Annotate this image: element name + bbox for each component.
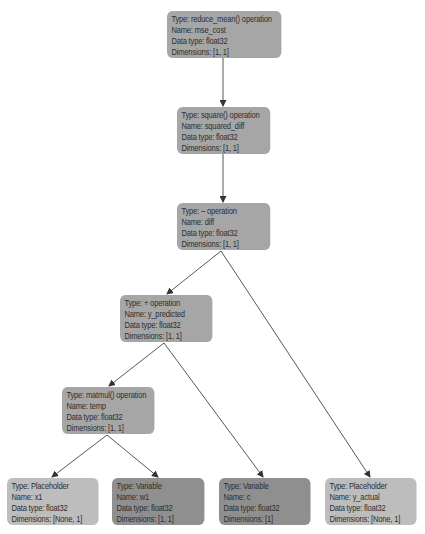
- node-type: Type: Variable: [116, 481, 200, 492]
- node-name: Name: diff: [181, 217, 266, 228]
- node-dims: Dimensions: [None, 1]: [11, 514, 95, 525]
- node-squared-diff: Type: square() operation Name: squared_d…: [177, 107, 270, 154]
- edges-layer: [0, 0, 425, 534]
- node-y-actual: Type: Placeholder Name: y_actual Data ty…: [325, 478, 417, 525]
- node-type: Type: + operation: [124, 298, 208, 309]
- node-dims: Dimensions: [1, 1]: [171, 47, 277, 58]
- node-y-predicted: Type: + operation Name: y_predicted Data…: [120, 295, 212, 342]
- node-dtype: Data type: float32: [116, 503, 200, 514]
- node-dtype: Data type: float32: [124, 320, 208, 331]
- node-name: Name: mse_cost: [171, 25, 277, 36]
- node-mse-cost: Type: reduce_mean() operation Name: mse_…: [167, 11, 281, 58]
- node-type: Type: square() operation: [181, 110, 266, 121]
- node-dims: Dimensions: [1, 1]: [181, 143, 266, 154]
- node-dtype: Data type: float32: [66, 412, 150, 423]
- node-type: Type: Variable: [223, 481, 307, 492]
- node-name: Name: y_actual: [329, 492, 413, 503]
- node-name: Name: squared_diff: [181, 121, 266, 132]
- edge-diff-y_predicted: [167, 251, 221, 294]
- node-name: Name: y_predicted: [124, 309, 208, 320]
- edge-y_predicted-temp: [109, 343, 164, 386]
- node-type: Type: reduce_mean() operation: [171, 14, 277, 25]
- node-name: Name: w1: [116, 492, 200, 503]
- node-dtype: Data type: float32: [181, 228, 266, 239]
- node-dims: Dimensions: [1, 1]: [181, 239, 266, 250]
- node-dtype: Data type: float32: [329, 503, 413, 514]
- node-dims: Dimensions: [1]: [223, 514, 307, 525]
- node-type: Type: Placeholder: [11, 481, 95, 492]
- node-dtype: Data type: float32: [171, 36, 277, 47]
- node-name: Name: x1: [11, 492, 95, 503]
- node-type: Type: Placeholder: [329, 481, 413, 492]
- node-w1: Type: Variable Name: w1 Data type: float…: [112, 478, 204, 525]
- edge-temp-w1: [107, 435, 158, 477]
- node-name: Name: temp: [66, 401, 150, 412]
- node-c: Type: Variable Name: c Data type: float3…: [219, 478, 311, 525]
- node-dims: Dimensions: [1, 1]: [124, 331, 208, 342]
- node-dtype: Data type: float32: [181, 132, 266, 143]
- node-dtype: Data type: float32: [223, 503, 307, 514]
- edge-y_predicted-c: [164, 343, 263, 477]
- node-dims: Dimensions: [None, 1]: [329, 514, 413, 525]
- edge-diff-y_actual: [221, 251, 370, 477]
- node-type: Type: matmul() operation: [66, 390, 150, 401]
- node-diff: Type: – operation Name: diff Data type: …: [177, 203, 270, 250]
- node-temp: Type: matmul() operation Name: temp Data…: [62, 387, 154, 434]
- node-type: Type: – operation: [181, 206, 266, 217]
- node-dims: Dimensions: [1, 1]: [66, 423, 150, 434]
- node-dtype: Data type: float32: [11, 503, 95, 514]
- node-name: Name: c: [223, 492, 307, 503]
- node-x1: Type: Placeholder Name: x1 Data type: fl…: [7, 478, 99, 525]
- edge-temp-x1: [52, 435, 107, 477]
- node-dims: Dimensions: [1, 1]: [116, 514, 200, 525]
